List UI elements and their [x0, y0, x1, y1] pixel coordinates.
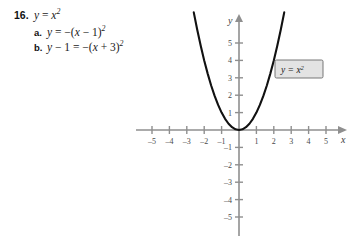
y-tick-label: 4	[228, 56, 232, 65]
x-axis-arrowhead	[338, 126, 347, 134]
worksheet-page: 16. y = x2 a. y = −(x − 1)2 b. y − 1 = −…	[0, 0, 352, 238]
x-tick-label: 2	[272, 137, 276, 146]
x-tick-label: –4	[164, 137, 173, 146]
y-tick-label: 5	[228, 39, 232, 48]
x-tick-label: –5	[147, 137, 156, 146]
parabola-graph: –5–4–3–2–112345 54321–1–2–3–4–5 y x y = …	[136, 2, 352, 236]
problem-part-b-equation: y − 1 = −(x + 3)2	[47, 42, 124, 54]
x-tick-label: 1	[254, 137, 258, 146]
x-tick-label: 5	[324, 137, 328, 146]
y-tick-label: –1	[223, 143, 232, 152]
x-tick-label: –3	[182, 137, 191, 146]
y-axis-arrowhead	[235, 14, 243, 22]
y-tick-label: 3	[228, 74, 232, 83]
y-tick-label: 1	[228, 109, 232, 118]
problem-part-a-label: a.	[34, 28, 47, 38]
y-tick-label: –2	[223, 161, 232, 170]
axes-group	[136, 14, 347, 236]
problem-number: 16.	[14, 10, 34, 21]
problem-part-b-label: b.	[34, 43, 47, 53]
x-tick-label: 4	[307, 137, 311, 146]
problem-part-a-equation: y = −(x − 1)2	[47, 27, 106, 39]
y-tick-label: –3	[223, 178, 232, 187]
y-tick-label: –4	[223, 196, 232, 205]
y-axis-label: y	[227, 15, 233, 26]
graph-svg: –5–4–3–2–112345 54321–1–2–3–4–5 y x y = …	[136, 2, 352, 236]
x-axis-label: x	[340, 134, 346, 145]
y-tick-label: –5	[223, 213, 232, 222]
x-tick-label: 3	[289, 137, 293, 146]
curve-label: y = x2	[275, 60, 323, 78]
x-tick-label: –2	[199, 137, 208, 146]
problem-main-equation: y = x2	[34, 10, 60, 22]
y-tick-label: 2	[228, 91, 232, 100]
